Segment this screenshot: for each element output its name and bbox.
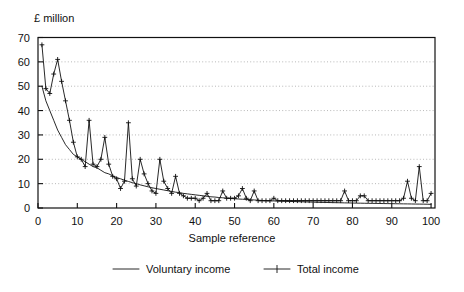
x-tick-label: 40: [189, 215, 201, 227]
x-tick-label: 80: [346, 215, 358, 227]
legend-label-total-income: Total income: [297, 263, 359, 275]
y-tick-label: 40: [18, 105, 30, 117]
series-polyline: [42, 45, 431, 201]
y-axis-title: £ million: [34, 12, 74, 24]
x-tick-label: 70: [307, 215, 319, 227]
x-axis-title: Sample reference: [189, 232, 276, 244]
series-polyline: [42, 86, 431, 204]
x-axis: 0102030405060708090100: [35, 203, 440, 227]
series-voluntary-income: [42, 86, 431, 204]
x-tick-label: 90: [386, 215, 398, 227]
chart-figure: £ million 010203040506070 01020304050607…: [0, 0, 464, 292]
y-tick-label: 30: [18, 129, 30, 141]
y-tick-label: 70: [18, 32, 30, 44]
y-axis: 010203040506070: [18, 32, 43, 215]
y-tick-label: 60: [18, 56, 30, 68]
x-tick-label: 10: [71, 215, 83, 227]
plot-frame: [38, 38, 435, 209]
x-tick-label: 100: [422, 215, 440, 227]
y-tick-label: 0: [24, 202, 30, 214]
gridlines: [39, 62, 434, 184]
x-tick-label: 30: [150, 215, 162, 227]
legend-label-voluntary-income: Voluntary income: [146, 263, 230, 275]
x-tick-label: 60: [268, 215, 280, 227]
legend-item-total-income: Total income: [264, 263, 359, 275]
legend-item-voluntary-income: Voluntary income: [113, 263, 230, 275]
x-tick-label: 20: [110, 215, 122, 227]
y-tick-label: 10: [18, 178, 30, 190]
chart-legend: Voluntary income Total income: [113, 263, 359, 275]
y-tick-label: 50: [18, 80, 30, 92]
series-total-income: [40, 42, 434, 203]
y-tick-label: 20: [18, 153, 30, 165]
x-tick-label: 0: [35, 215, 41, 227]
x-tick-label: 50: [228, 215, 240, 227]
